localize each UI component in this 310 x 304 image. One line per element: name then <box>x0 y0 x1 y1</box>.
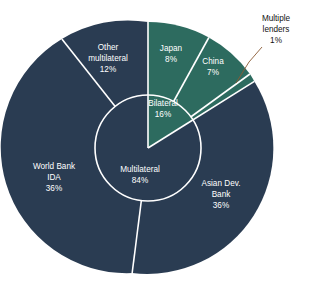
label-world-bank-ida-line2: IDA <box>47 173 61 182</box>
label-bilateral-value: 16% <box>155 110 171 119</box>
label-asian-dev-bank-line2: Bank <box>212 190 232 199</box>
label-japan-value: 8% <box>165 55 177 64</box>
label-asian-dev-bank-line1: Asian Dev. <box>202 179 241 188</box>
label-china-name: China <box>202 57 224 66</box>
label-world-bank-ida-value: 36% <box>46 184 62 193</box>
label-multilateral-value: 84% <box>132 176 148 185</box>
label-other-multilateral-line2: multilateral <box>88 54 128 63</box>
callout-multiple-lenders-line2: lenders <box>263 25 290 34</box>
chart-svg: Japan 8% China 7% Asian Dev. Bank 36% Wo… <box>0 0 310 304</box>
label-other-multilateral-line1: Other <box>98 43 119 52</box>
label-asian-dev-bank-value: 36% <box>213 201 229 210</box>
label-bilateral-name: Bilateral <box>148 99 178 108</box>
label-multilateral-name: Multilateral <box>120 165 160 174</box>
nested-donut-chart: Japan 8% China 7% Asian Dev. Bank 36% Wo… <box>0 0 310 304</box>
callout-multiple-lenders-line1: Multiple <box>262 14 291 23</box>
callout-multiple-lenders-value: 1% <box>270 36 282 45</box>
label-other-multilateral-value: 12% <box>100 65 116 74</box>
label-china-value: 7% <box>207 68 219 77</box>
callout-multiple-lenders: Multiple lenders 1% <box>262 14 291 45</box>
label-japan-name: Japan <box>160 44 183 53</box>
label-world-bank-ida-line1: World Bank <box>33 162 76 171</box>
